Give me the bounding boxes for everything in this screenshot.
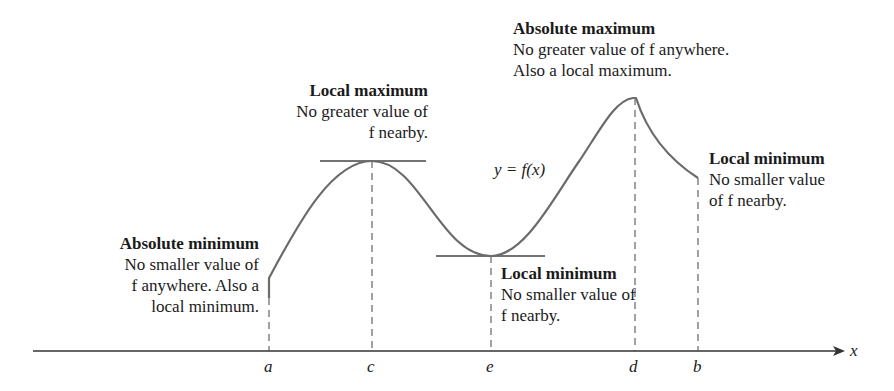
annotation-line: No greater value of	[296, 101, 428, 122]
tick-label-b: b	[693, 358, 702, 375]
annotation-local-minimum-b: Local minimum No smaller value of f near…	[709, 148, 825, 211]
curve-label: y = f(x)	[494, 160, 545, 180]
annotation-line: No smaller value of	[501, 284, 636, 305]
annotation-title: Local minimum	[501, 263, 636, 284]
tick-label-a: a	[264, 358, 273, 375]
annotation-line: local minimum.	[120, 296, 259, 317]
annotation-title: Absolute maximum	[513, 18, 729, 39]
tick-label-c: c	[367, 358, 375, 375]
annotation-absolute-maximum: Absolute maximum No greater value of f a…	[513, 18, 729, 81]
annotation-line: No greater value of f anywhere.	[513, 39, 729, 60]
annotation-line: No smaller value	[709, 169, 825, 190]
tick-label-d: d	[629, 358, 638, 375]
annotation-title: Local minimum	[709, 148, 825, 169]
annotation-absolute-minimum: Absolute minimum No smaller value of f a…	[120, 233, 259, 317]
x-axis-label: x	[850, 342, 858, 359]
annotation-title: Absolute minimum	[120, 233, 259, 254]
annotation-line: f nearby.	[501, 305, 636, 326]
tick-label-e: e	[486, 358, 494, 375]
annotation-line: f nearby.	[296, 122, 428, 143]
annotation-line: of f nearby.	[709, 190, 825, 211]
annotation-local-minimum-e: Local minimum No smaller value of f near…	[501, 263, 636, 326]
annotation-title: Local maximum	[296, 80, 428, 101]
annotation-local-maximum: Local maximum No greater value of f near…	[296, 80, 428, 143]
annotation-line: No smaller value of	[120, 254, 259, 275]
annotation-line: f anywhere. Also a	[120, 275, 259, 296]
annotation-line: Also a local maximum.	[513, 60, 729, 81]
